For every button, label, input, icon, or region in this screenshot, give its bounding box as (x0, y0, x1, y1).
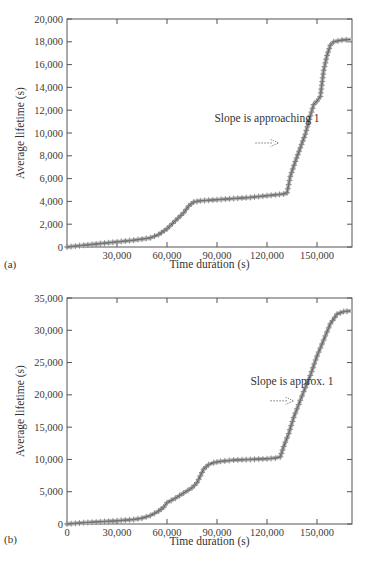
y-tick-label: 6,000 (39, 173, 63, 184)
panel-label: (a) (4, 258, 17, 271)
plot-frame (67, 298, 352, 524)
series-markers (64, 308, 350, 527)
y-tick-label: 35,000 (34, 293, 63, 304)
series-markers (64, 37, 349, 250)
x-tick-label: 30,000 (103, 250, 132, 261)
y-tick-label: 2,000 (39, 219, 63, 230)
panel-label: (b) (4, 533, 17, 546)
y-tick-label: 8,000 (39, 150, 63, 161)
annotation-text: Slope is approaching 1 (214, 112, 319, 125)
y-tick-label: 10,000 (34, 128, 63, 139)
y-tick-label: 15,000 (34, 422, 63, 433)
series-band (67, 311, 350, 524)
y-tick-label: 25,000 (34, 357, 63, 368)
x-tick-label: 150,000 (300, 527, 334, 538)
chart-b-svg: 05,00010,00015,00020,00025,00030,00035,0… (0, 285, 365, 565)
annotation-text: Slope is approx. 1 (250, 375, 333, 388)
x-axis-title: Time duration (s) (169, 258, 249, 271)
y-tick-label: 20,000 (34, 389, 63, 400)
y-tick-label: 0 (58, 519, 63, 530)
y-tick-label: 5,000 (39, 486, 63, 497)
y-tick-label: 20,000 (34, 14, 63, 25)
series-band (67, 40, 350, 248)
y-tick-label: 4,000 (39, 196, 63, 207)
y-tick-label: 14,000 (34, 82, 63, 93)
y-tick-label: 18,000 (34, 36, 63, 47)
x-tick-label: 150,000 (300, 250, 334, 261)
annotation-arrow-head (271, 140, 279, 147)
x-tick-label: 120,000 (250, 527, 284, 538)
plot-frame (67, 19, 352, 247)
series-line (67, 311, 350, 524)
y-tick-label: 0 (58, 242, 63, 253)
chart-panel-a: 02,0004,0006,0008,00010,00012,00014,0001… (0, 0, 365, 285)
series-line (67, 40, 350, 248)
y-tick-label: 16,000 (34, 59, 63, 70)
x-tick-label: 0 (64, 527, 69, 538)
x-tick-label: 120,000 (250, 250, 284, 261)
y-tick-label: 30,000 (34, 325, 63, 336)
x-axis-title: Time duration (s) (169, 535, 249, 548)
chart-panel-b: 05,00010,00015,00020,00025,00030,00035,0… (0, 285, 365, 565)
y-axis-title: Average lifetime (s) (14, 365, 27, 457)
x-tick-label: 30,000 (103, 527, 132, 538)
annotation-arrow-head (286, 397, 294, 404)
y-axis-title: Average lifetime (s) (14, 87, 27, 179)
y-tick-label: 12,000 (34, 105, 63, 116)
chart-a-svg: 02,0004,0006,0008,00010,00012,00014,0001… (0, 0, 365, 285)
y-tick-label: 10,000 (34, 454, 63, 465)
